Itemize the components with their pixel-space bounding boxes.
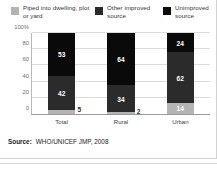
bar-segment[interactable]: 62 bbox=[167, 52, 195, 102]
bar-group: 23464Rural bbox=[91, 33, 150, 114]
source-caption: Source:WHO/UNICEF JMP, 2008 bbox=[8, 138, 108, 145]
plot-area: 020406080100% 54253Total23464Rural146224… bbox=[31, 33, 210, 115]
source-label: Source: bbox=[8, 138, 32, 145]
stacked-bar[interactable]: 23464 bbox=[107, 33, 135, 114]
bar-value-label: 34 bbox=[107, 95, 135, 102]
bar-value-label: 5 bbox=[75, 106, 91, 113]
legend-label-other-improved: Other improved source bbox=[107, 4, 159, 19]
x-axis-tick-label: Total bbox=[55, 119, 68, 125]
chart-legend: Piped into dwelling, plot or yard Other … bbox=[11, 5, 213, 29]
stacked-bar[interactable]: 146224 bbox=[167, 33, 195, 114]
bar-group: 146224Urban bbox=[151, 33, 210, 114]
y-axis-tick-label: 20 bbox=[3, 89, 29, 95]
legend-swatch-other-improved bbox=[95, 7, 103, 15]
source-value: WHO/UNICEF JMP, 2008 bbox=[36, 138, 109, 145]
bar-value-label: 42 bbox=[48, 89, 76, 96]
bar-value-label: 2 bbox=[135, 108, 151, 115]
bar-segment[interactable]: 42 bbox=[48, 76, 76, 110]
stacked-bar[interactable]: 54253 bbox=[48, 33, 76, 114]
bar-value-label: 24 bbox=[167, 39, 195, 46]
legend-swatch-piped bbox=[11, 7, 19, 15]
legend-label-piped: Piped into dwelling, plot or yard bbox=[23, 4, 91, 19]
bar-segment[interactable]: 34 bbox=[107, 85, 135, 113]
bar-segment[interactable]: 14 bbox=[167, 103, 195, 114]
bar-group: 54253Total bbox=[32, 33, 91, 114]
bar-segment[interactable]: 5 bbox=[48, 110, 76, 114]
bar-segment[interactable]: 24 bbox=[167, 33, 195, 52]
x-axis-tick-label: Urban bbox=[172, 119, 188, 125]
y-axis-tick-label: 60 bbox=[3, 56, 29, 62]
legend-swatch-unimproved bbox=[163, 7, 171, 15]
bar-segment[interactable]: 53 bbox=[48, 33, 76, 76]
x-axis-tick-label: Rural bbox=[114, 119, 128, 125]
bar-segment[interactable]: 64 bbox=[107, 33, 135, 85]
bar-value-label: 53 bbox=[48, 51, 76, 58]
bar-value-label: 64 bbox=[107, 55, 135, 62]
legend-label-unimproved: Unimproved source bbox=[175, 4, 217, 19]
y-axis-tick-label: 80 bbox=[3, 40, 29, 46]
bottom-strip bbox=[0, 163, 217, 170]
bar-value-label: 62 bbox=[167, 74, 195, 81]
y-axis-tick-label: 0 bbox=[3, 105, 29, 111]
chart-figure: Piped into dwelling, plot or yard Other … bbox=[0, 0, 217, 159]
y-axis-tick-label: 100% bbox=[3, 24, 29, 30]
y-axis-tick-label: 40 bbox=[3, 73, 29, 79]
bar-segment[interactable]: 2 bbox=[107, 112, 135, 114]
bar-value-label: 14 bbox=[167, 105, 195, 112]
